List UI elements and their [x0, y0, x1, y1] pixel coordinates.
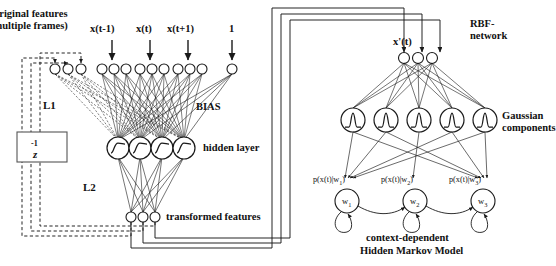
frame-input-nodes [97, 64, 207, 74]
bias-label: BIAS [196, 101, 221, 112]
hmm-emission-label-2: p(x(t)|w2) [381, 175, 413, 186]
input-label-one: 1 [229, 23, 234, 34]
l1-frame-connections [102, 74, 202, 140]
delay-z-letter: z [33, 148, 37, 160]
recurrent-input-nodes [50, 64, 86, 74]
transformed-features-label: transformed features [166, 211, 261, 222]
delay-operator-label: -1 z [31, 139, 38, 153]
hmm-emission-prefix-3: p(x(t)|w [449, 175, 475, 184]
hmm-emission-label-1: p(x(t)|w1) [313, 175, 345, 186]
l2-label: L2 [83, 182, 96, 194]
rbf-network-label-line2: network [470, 30, 507, 41]
gaussian-component-nodes [341, 108, 497, 132]
hmm-caption-line2: Hidden Markov Model [360, 245, 463, 256]
hmm-emission-suffix-2: ) [410, 175, 413, 184]
bias-node [227, 64, 237, 74]
input-arrows [112, 40, 232, 60]
hmm-emission-prefix-1: p(x(t)|w [313, 175, 339, 184]
gaussian-components-label-line2: components [502, 122, 556, 133]
hmm-state-label-3: w3 [478, 196, 487, 208]
input-label-x-t-plus-1: x(t+1) [167, 23, 194, 34]
gaussian-to-hmm-connections [345, 132, 487, 178]
hmm-emission-prefix-2: p(x(t)|w [381, 175, 407, 184]
delay-box [17, 132, 67, 162]
delay-exponent: -1 [31, 139, 38, 148]
hidden-layer-label: hidden layer [203, 142, 259, 153]
l2-connections [118, 157, 184, 212]
rbf-input-nodes [399, 53, 438, 64]
input-label-x-t: x(t) [136, 23, 152, 34]
hmm-caption-line1: context-dependent [366, 232, 449, 243]
gaussian-components-label-line1: Gaussian [502, 110, 543, 121]
hmm-emission-label-3: p(x(t)|w3) [449, 175, 481, 186]
hmm-state-sub-3: 3 [484, 201, 487, 208]
hmm-state-sub-1: 1 [348, 201, 351, 208]
hmm-emission-suffix-1: ) [342, 175, 345, 184]
hidden-layer-nodes [107, 137, 195, 159]
l1-label: L1 [43, 100, 56, 112]
hmm-state-label-1: w1 [342, 196, 351, 208]
transformed-feature-nodes [126, 212, 160, 222]
original-features-label-line1: original features [0, 8, 68, 19]
original-features-label-line2: (multiple frames) [0, 20, 68, 31]
hmm-emission-suffix-3: ) [478, 175, 481, 184]
hmm-state-sub-2: 2 [416, 201, 419, 208]
rbf-network-label-line1: RBF- [470, 18, 495, 29]
input-label-x-t-minus-1: x(t-1) [90, 23, 115, 34]
hmm-state-label-2: w2 [410, 196, 419, 208]
rbf-input-to-gaussian-connections [353, 63, 485, 108]
x-prime-t-label: x'(t) [393, 36, 412, 47]
